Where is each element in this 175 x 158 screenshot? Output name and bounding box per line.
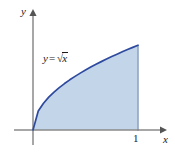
x-axis-tick-label-1: 1 <box>133 133 139 144</box>
equation-equals-sign: = <box>48 52 56 64</box>
square-root-icon: √x <box>56 52 68 65</box>
plot-canvas <box>0 0 175 158</box>
x-axis-label: x <box>163 134 168 145</box>
curve-equation-annotation: y=√x <box>43 52 68 65</box>
y-axis-label: y <box>21 6 26 17</box>
figure-container: y x 1 y=√x <box>0 0 175 158</box>
equation-radicand: x <box>62 52 68 65</box>
y-axis-arrow-icon <box>29 9 36 16</box>
